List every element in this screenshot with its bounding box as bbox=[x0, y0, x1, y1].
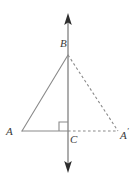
segment-BA-prime bbox=[68, 55, 118, 131]
vertex-label-B: B bbox=[60, 38, 67, 49]
geometry-canvas bbox=[0, 0, 137, 178]
vertex-label-A: A bbox=[6, 126, 13, 137]
vertex-label-C: C bbox=[70, 134, 77, 145]
vertex-label-A-prime-base: A bbox=[120, 129, 127, 141]
prime-mark-icon: ′ bbox=[127, 126, 129, 136]
segment-AB bbox=[22, 55, 68, 131]
geometry-figure: B A C A′ bbox=[0, 0, 137, 178]
right-angle-at-C bbox=[59, 122, 68, 131]
vertex-label-A-prime: A′ bbox=[120, 126, 129, 141]
